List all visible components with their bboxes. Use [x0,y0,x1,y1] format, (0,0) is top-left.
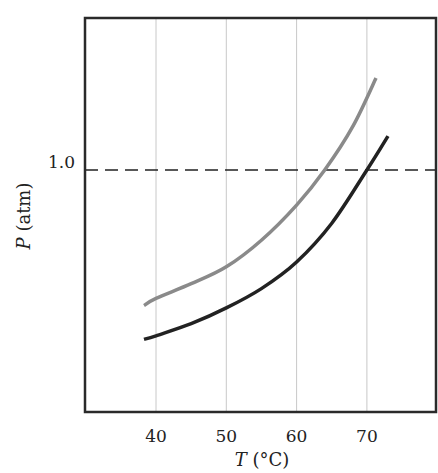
x-tick-label-40: 40 [145,426,167,446]
vapor-pressure-chart: 40506070 1.0 T (°C) P (atm) [0,0,438,473]
y-axis-variable: P [13,236,34,250]
x-axis-unit: (°C) [247,449,290,470]
y-axis-unit: (atm) [13,183,34,238]
x-tick-label-70: 70 [356,426,378,446]
curve-upper-gray [144,78,376,306]
x-tick-label-50: 50 [215,426,237,446]
x-axis-label: T (°C) [235,449,290,470]
vertical-gridlines [156,18,367,412]
x-tick-labels: 40506070 [145,426,378,446]
y-axis-label: P (atm) [13,183,34,251]
plot-frame [85,18,436,412]
x-tick-label-60: 60 [286,426,308,446]
curves [144,78,388,339]
y-tick-label: 1.0 [48,152,75,172]
